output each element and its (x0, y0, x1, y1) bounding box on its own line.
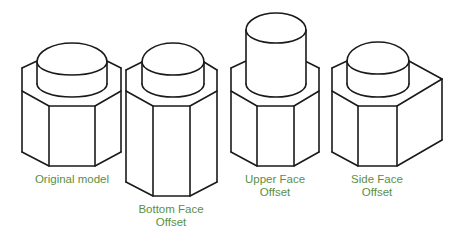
label-line: Side Face (327, 173, 427, 186)
model-bottom-face-offset (126, 43, 217, 196)
label-original-model: Original model (21, 173, 123, 186)
label-side-face-offset: Side Face Offset (327, 173, 427, 199)
model-side-face-offset (332, 42, 442, 166)
model-original (22, 43, 121, 166)
label-bottom-face-offset: Bottom Face Offset (120, 203, 222, 229)
label-line: Upper Face (225, 173, 325, 186)
label-line: Offset (120, 216, 222, 229)
label-line: Offset (327, 186, 427, 199)
models-drawing (0, 0, 462, 236)
label-line: Bottom Face (120, 203, 222, 216)
label-line: Original model (21, 173, 123, 186)
label-line: Offset (225, 186, 325, 199)
model-upper-face-offset (231, 13, 319, 166)
figure-stage: Original model Bottom Face Offset Upper … (0, 0, 462, 236)
label-upper-face-offset: Upper Face Offset (225, 173, 325, 199)
